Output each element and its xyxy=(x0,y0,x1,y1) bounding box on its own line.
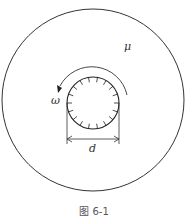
inner-shaft xyxy=(67,77,119,129)
rotation-arrowhead-icon xyxy=(57,85,62,93)
viscosity-label: μ xyxy=(124,40,131,53)
figure-caption: 图 6-1 xyxy=(0,203,188,218)
diameter-label: d xyxy=(89,142,96,155)
diagram-canvas xyxy=(0,0,188,219)
omega-label: ω xyxy=(51,94,60,107)
outer-circle xyxy=(2,9,184,191)
